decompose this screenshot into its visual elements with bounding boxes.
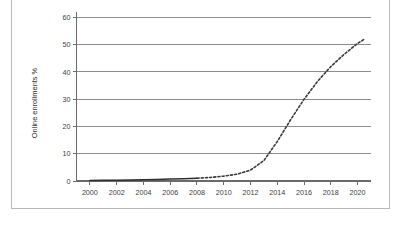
x-tick-label-2018: 2018 — [323, 188, 339, 197]
x-tick-label-2016: 2016 — [296, 188, 312, 197]
axis-titles: Online enrollments % — [30, 67, 39, 138]
series-line-1 — [197, 39, 364, 178]
y-tick-label-40: 40 — [63, 68, 71, 77]
y-tick-label-0: 0 — [67, 177, 71, 186]
y-tick-label-10: 10 — [63, 149, 71, 158]
x-tick-label-2000: 2000 — [82, 188, 98, 197]
y-tick-label-50: 50 — [63, 40, 71, 49]
y-axis-title: Online enrollments % — [30, 67, 39, 138]
y-tick-label-30: 30 — [63, 95, 71, 104]
x-tick-label-2020: 2020 — [350, 188, 366, 197]
chart-canvas: 0102030405060200020022004200620082010201… — [0, 0, 401, 226]
x-tick-label-2002: 2002 — [109, 188, 125, 197]
data-series — [90, 39, 364, 180]
y-tick-label-60: 60 — [63, 13, 71, 22]
axis-tick-labels: 0102030405060200020022004200620082010201… — [63, 13, 366, 196]
y-tick-label-20: 20 — [63, 122, 71, 131]
tick-marks — [73, 17, 358, 185]
series-line-0 — [90, 178, 197, 180]
x-tick-label-2006: 2006 — [162, 188, 178, 197]
x-tick-label-2010: 2010 — [216, 188, 232, 197]
line-chart: 0102030405060200020022004200620082010201… — [0, 0, 401, 226]
x-tick-label-2012: 2012 — [243, 188, 259, 197]
x-tick-label-2008: 2008 — [189, 188, 205, 197]
x-tick-label-2004: 2004 — [135, 188, 151, 197]
chart-axes — [77, 12, 372, 181]
grid-lines — [77, 17, 372, 153]
x-tick-label-2014: 2014 — [269, 188, 285, 197]
